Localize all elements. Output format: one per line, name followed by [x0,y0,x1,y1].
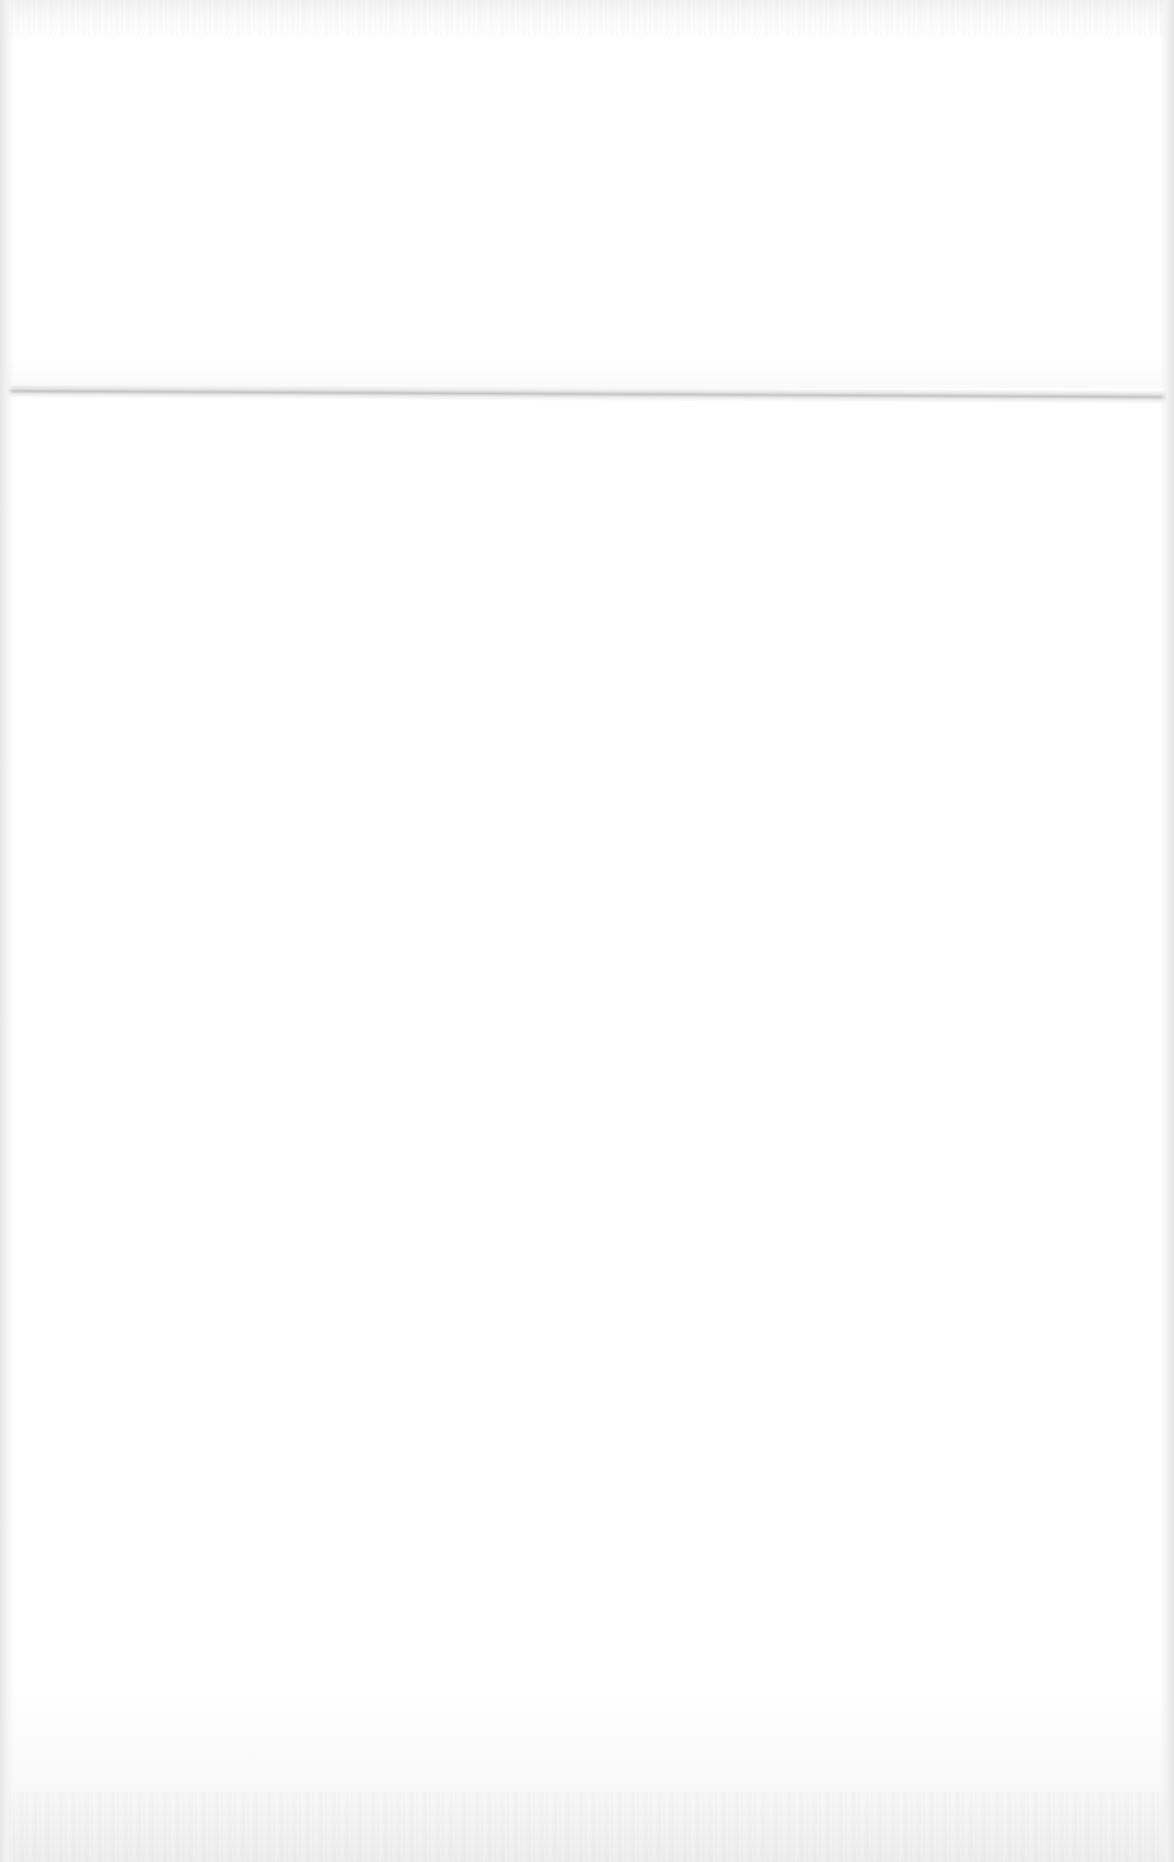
right-edge-shadow [1160,0,1174,1862]
left-edge-shadow [0,0,14,1862]
page-body [0,398,1174,1862]
top-flap [0,0,1174,388]
blank-paper-sheet [0,0,1174,1862]
